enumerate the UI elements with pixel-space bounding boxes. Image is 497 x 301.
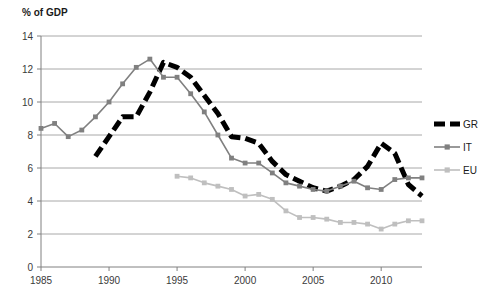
legend-label: EU [463,165,477,176]
data-point-marker [147,57,152,62]
data-point-marker [420,176,425,181]
y-tick-label: 14 [22,31,34,42]
data-point-marker [215,184,220,189]
data-point-marker [229,187,234,192]
y-tick-label: 10 [22,97,34,108]
data-point-marker [79,128,84,133]
data-point-marker [352,179,357,184]
x-tick-label: 1990 [98,275,121,286]
data-point-marker [270,197,275,202]
data-point-marker [365,185,370,190]
data-point-marker [243,194,248,199]
data-point-marker [175,174,180,179]
data-point-marker [324,217,329,222]
y-tick-label: 12 [22,64,34,75]
data-point-marker [202,180,207,185]
data-point-marker [297,184,302,189]
data-point-marker [379,227,384,232]
line-chart: % of GDP 02468101214 1985199019952000200… [0,0,497,301]
data-point-marker [175,75,180,80]
data-point-marker [338,184,343,189]
data-point-marker [66,134,71,139]
data-point-marker [107,100,112,105]
data-point-marker [420,218,425,223]
x-tick-label: 1985 [30,275,53,286]
x-tick-label: 2010 [370,275,393,286]
data-point-marker [270,171,275,176]
legend-label: IT [463,142,472,153]
data-point-marker [93,114,98,119]
x-tick-label: 1995 [166,275,189,286]
y-axis-title: % of GDP [22,7,68,18]
data-point-marker [256,192,261,197]
y-tick-label: 6 [27,163,33,174]
data-point-marker [284,180,289,185]
data-point-marker [256,161,261,166]
data-point-marker [297,215,302,220]
chart-container: % of GDP 02468101214 1985199019952000200… [0,0,497,301]
data-point-marker [392,177,397,182]
data-point-marker [406,218,411,223]
data-point-marker [311,215,316,220]
x-tick-label: 2000 [234,275,257,286]
data-point-marker [338,220,343,225]
data-point-marker [229,156,234,161]
data-point-marker [202,110,207,115]
legend-label: GR [463,119,478,130]
data-point-marker [392,222,397,227]
legend-marker [445,144,450,149]
data-point-marker [365,222,370,227]
chart-background [0,0,497,301]
y-tick-label: 2 [27,229,33,240]
data-point-marker [188,91,193,96]
legend-marker [445,167,450,172]
data-point-marker [215,133,220,138]
data-point-marker [406,176,411,181]
data-point-marker [311,187,316,192]
data-point-marker [120,81,125,86]
data-point-marker [134,65,139,70]
data-point-marker [161,75,166,80]
data-point-marker [243,161,248,166]
data-point-marker [39,126,44,131]
y-tick-label: 4 [27,196,33,207]
data-point-marker [188,176,193,181]
data-point-marker [352,220,357,225]
data-point-marker [324,189,329,194]
data-point-marker [52,121,57,126]
data-point-marker [379,187,384,192]
y-tick-label: 0 [27,262,33,273]
y-tick-label: 8 [27,130,33,141]
x-tick-label: 2005 [302,275,325,286]
data-point-marker [284,209,289,214]
